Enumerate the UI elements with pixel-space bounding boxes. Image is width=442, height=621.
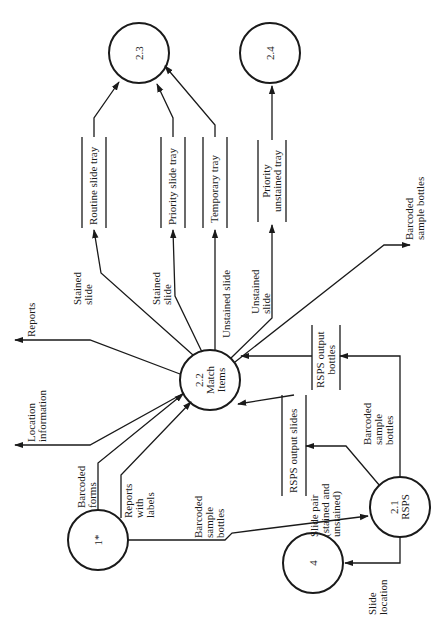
process-4-label: 4	[308, 560, 319, 566]
flow-stained-slide-routine: Stainedslide	[72, 272, 94, 305]
process-2-1-label: 2.1RSPS	[389, 494, 411, 520]
process-2-2-label: 2.2MatchItems	[194, 366, 227, 394]
flow-barcoded-sample-bottles-rsps: Barcodedsamplebottles	[362, 403, 395, 445]
flow-unstained-slide-temporary: Unstained slide	[221, 270, 232, 338]
flow-barcoded-sample-bottles-in: Barcodedsamplebottles	[193, 496, 226, 538]
flow-slide-location: Slidelocation	[367, 580, 389, 615]
data-flow-diagram: 2.3 2.4 2.2MatchItems 1* 2.1RSPS 4 Routi…	[0, 0, 442, 621]
process-2-3-label: 2.3	[134, 46, 145, 60]
flow-location-information: Locationinformation	[26, 390, 48, 442]
flow-unstained-slide-priority: Unstainedslide	[250, 269, 272, 314]
process-1-label: 1*	[93, 535, 104, 546]
store-priority-slide-tray: Priority slide tray	[167, 148, 178, 225]
flow-barcoded-sample-bottles-out: Barcodedsample bottles	[404, 177, 426, 240]
store-temporary-tray: Temporary tray	[209, 155, 220, 223]
flow-reports: Reports	[26, 303, 37, 337]
process-2-4-label: 2.4	[265, 46, 276, 60]
store-rsps-output-slides: RSPS output slides	[288, 409, 299, 493]
flow-barcoded-forms: Barcodedforms	[76, 466, 98, 508]
store-routine-slide-tray: Routine slide tray	[88, 147, 99, 225]
flow-stained-slide-priority: Stainedslide	[151, 272, 173, 305]
flow-slide-pair: Slide pair(stained andunstained)	[309, 484, 342, 537]
store-priority-unstained-tray: Priorityunstained tray	[261, 150, 283, 212]
store-rsps-output-bottles: RSPS outputbottles	[315, 331, 337, 388]
flow-reports-with-labels: Reportswithlabels	[123, 484, 156, 518]
